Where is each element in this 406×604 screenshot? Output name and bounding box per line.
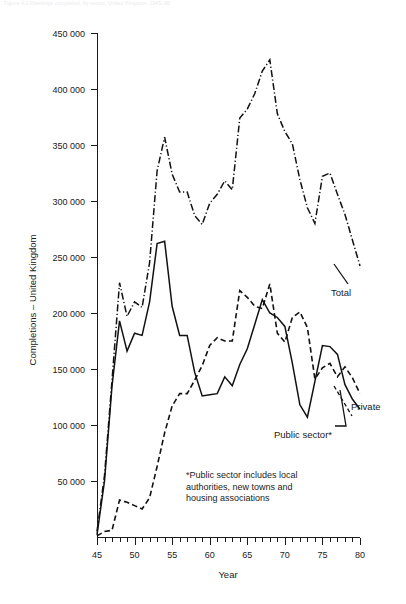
y-tick-label: 50 000 — [57, 477, 85, 487]
footnote-line-3: housing associations — [186, 493, 346, 505]
y-tick-label: 350 000 — [52, 141, 85, 151]
y-tick-label: 200 000 — [52, 309, 85, 319]
y-tick-label: 250 000 — [52, 253, 85, 263]
footnote-line-2: authorities, new towns and — [186, 482, 346, 494]
y-tick-label: 450 000 — [52, 29, 85, 39]
y-tick-label: 150 000 — [52, 365, 85, 375]
y-tick-label: 100 000 — [52, 421, 85, 431]
x-tick-label: 65 — [242, 550, 252, 560]
x-axis-title: Year — [218, 569, 237, 580]
x-tick-label: 75 — [317, 550, 327, 560]
x-tick-label: 60 — [205, 550, 215, 560]
x-axis-ticks — [98, 538, 361, 545]
series-label-public-sector: Public sector* — [274, 429, 332, 440]
footnote: *Public sector includes local authoritie… — [186, 470, 346, 505]
axis-titles: Completions – United Kingdom Year — [27, 234, 238, 580]
line-chart: 50 000100 000150 000200 000250 000300 00… — [0, 0, 406, 604]
x-tick-label: 45 — [92, 550, 102, 560]
y-axis-tick-labels: 50 000100 000150 000200 000250 000300 00… — [52, 29, 85, 487]
data-series — [97, 60, 360, 536]
x-tick-label: 80 — [355, 550, 365, 560]
public-sector-leader-line — [335, 390, 346, 426]
total-leader-line — [334, 264, 348, 284]
chart-container: 50 000100 000150 000200 000250 000300 00… — [0, 0, 406, 604]
series-line-total — [97, 60, 360, 532]
x-axis-tick-labels: 4550556065707580 — [92, 550, 365, 560]
y-axis-title: Completions – United Kingdom — [27, 234, 38, 365]
footnote-line-1: *Public sector includes local — [186, 470, 346, 482]
series-label-total: Total — [331, 287, 351, 298]
x-tick-label: 70 — [280, 550, 290, 560]
y-axis-ticks — [91, 34, 97, 482]
x-tick-label: 50 — [130, 550, 140, 560]
series-label-private: Private — [351, 401, 381, 412]
x-tick-label: 55 — [167, 550, 177, 560]
y-tick-label: 300 000 — [52, 197, 85, 207]
y-tick-label: 400 000 — [52, 85, 85, 95]
